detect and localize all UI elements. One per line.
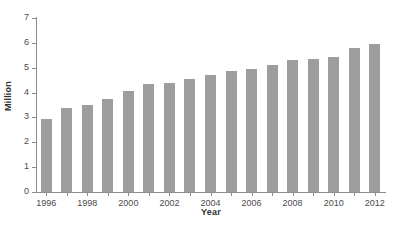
- x-axis-tick: [293, 192, 294, 196]
- bar: [328, 57, 339, 192]
- y-axis-title-text: Million: [3, 81, 13, 111]
- bar: [143, 84, 154, 192]
- y-axis-tick: 3: [32, 117, 36, 118]
- bar: [287, 60, 298, 192]
- y-axis-tick-label: 3: [24, 111, 29, 122]
- y-axis-tick: 6: [32, 43, 36, 44]
- bar: [41, 119, 52, 192]
- bar: [308, 59, 319, 192]
- x-axis-tick: [169, 192, 170, 196]
- x-axis-tick: [211, 192, 212, 196]
- x-axis-tick: [149, 192, 150, 196]
- x-axis-tick: [375, 192, 376, 196]
- bar: [369, 44, 380, 192]
- x-axis-tick: [231, 192, 232, 196]
- x-axis-tick: [190, 192, 191, 196]
- bar: [246, 69, 257, 192]
- bar-chart-figure: Million 01234567199619982000200220042006…: [0, 0, 396, 230]
- bar: [123, 91, 134, 192]
- y-axis-tick-label: 0: [24, 186, 29, 197]
- y-axis-tick-label: 6: [24, 37, 29, 48]
- x-axis-tick: [252, 192, 253, 196]
- x-axis-tick: [334, 192, 335, 196]
- y-axis-tick-label: 1: [24, 161, 29, 172]
- x-axis-tick: [272, 192, 273, 196]
- x-axis-tick: [354, 192, 355, 196]
- y-axis-tick: 0: [32, 192, 36, 193]
- x-axis-tick: [128, 192, 129, 196]
- x-axis-tick: [67, 192, 68, 196]
- y-axis-tick: 1: [32, 167, 36, 168]
- bar: [82, 105, 93, 192]
- y-axis-tick: 2: [32, 142, 36, 143]
- x-axis-title: Year: [36, 207, 386, 217]
- bar: [184, 79, 195, 192]
- bar: [267, 65, 278, 192]
- plot-area: 0123456719961998200020022004200620082010…: [36, 18, 385, 192]
- x-axis-tick: [108, 192, 109, 196]
- x-axis-tick: [87, 192, 88, 196]
- y-axis-tick: 7: [32, 18, 36, 19]
- y-axis-tick: 4: [32, 93, 36, 94]
- y-axis-tick-label: 7: [24, 12, 29, 23]
- bar: [164, 83, 175, 192]
- y-axis-tick-label: 2: [24, 136, 29, 147]
- y-axis-tick: 5: [32, 68, 36, 69]
- y-axis-tick-label: 4: [24, 87, 29, 98]
- x-axis-tick: [313, 192, 314, 196]
- chart-title: [26, 0, 386, 5]
- bar: [205, 75, 216, 192]
- bar: [61, 108, 72, 193]
- bar: [349, 48, 360, 192]
- y-axis-title: Million: [0, 0, 16, 192]
- bar: [102, 99, 113, 192]
- bar: [226, 71, 237, 192]
- y-axis-tick-label: 5: [24, 62, 29, 73]
- x-axis-tick: [46, 192, 47, 196]
